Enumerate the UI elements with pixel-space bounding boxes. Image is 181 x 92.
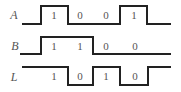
bit-value: 1 — [51, 41, 57, 52]
signal-label-a: A — [10, 9, 17, 21]
bit-value: 1 — [103, 71, 109, 82]
bit-value: 1 — [51, 71, 57, 82]
bit-value: 0 — [132, 71, 138, 82]
signal-label-l: L — [11, 71, 18, 83]
bit-value: 0 — [103, 41, 109, 52]
timing-diagram: A B L 1 0 0 1 1 1 0 0 1 0 1 0 — [0, 0, 181, 92]
bit-value: 1 — [131, 10, 137, 21]
waveform-a — [22, 6, 171, 24]
waveform-l — [22, 67, 171, 85]
bit-value: 1 — [51, 10, 57, 21]
bit-value: 0 — [132, 41, 138, 52]
bit-value: 0 — [77, 71, 83, 82]
bit-value: 0 — [103, 10, 109, 21]
bit-value: 1 — [77, 41, 83, 52]
signal-label-b: B — [11, 40, 18, 52]
waveforms — [0, 0, 181, 92]
waveform-b — [20, 37, 171, 54]
bit-value: 0 — [77, 10, 83, 21]
